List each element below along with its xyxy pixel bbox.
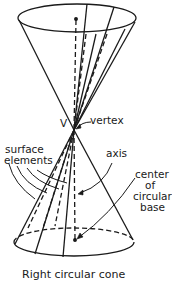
vertex-letter-label: V — [60, 117, 68, 129]
surface-elements-label-line2: elements — [4, 154, 53, 166]
center-arrowhead — [77, 233, 83, 239]
lower-element-dashed-3 — [55, 130, 74, 226]
center-label-line4: base — [140, 201, 165, 213]
cone-diagram: V vertex surface elements axis center of… — [0, 0, 172, 285]
axis-arrow — [80, 163, 112, 193]
lower-base-front — [14, 242, 134, 256]
figure-caption: Right circular cone — [22, 268, 125, 281]
surface-arrow-1 — [9, 164, 35, 199]
surface-arrow-2 — [17, 166, 47, 193]
upper-left-edge — [19, 20, 74, 130]
base-center-dot — [74, 239, 77, 242]
axis-arrowhead — [78, 190, 83, 195]
upper-center-dot — [75, 18, 78, 21]
lower-axis-dashed — [74, 130, 75, 240]
vertex-label: vertex — [90, 114, 124, 126]
axis-label: axis — [106, 147, 127, 159]
